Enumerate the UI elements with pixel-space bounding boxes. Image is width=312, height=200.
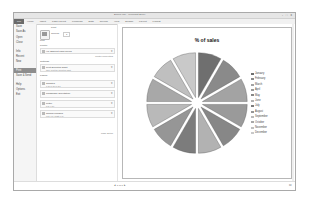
setting-dropdown-2[interactable]: Landscape Orientation▾ [40, 90, 115, 98]
pages-label: Pages: [40, 74, 48, 77]
chevron-down-icon: ▾ [111, 65, 113, 69]
window-title: Book1.xlsx - Microsoft Excel [114, 13, 145, 16]
copies-label: Copies: [51, 32, 59, 35]
printer-icon [42, 32, 47, 36]
setting-icon [42, 112, 45, 115]
legend-swatch [251, 132, 254, 134]
legend-swatch [251, 105, 254, 107]
legend-item: December [251, 130, 268, 135]
chevron-down-icon: ▾ [111, 49, 113, 53]
chevron-down-icon: ▾ [111, 101, 113, 105]
copies-input[interactable]: 1 [63, 32, 70, 37]
preview-scrollbar[interactable] [292, 24, 294, 182]
setting-dropdown-4[interactable]: Normal MarginsLeft: 0.7" Right: 0.7"▾ [40, 110, 115, 118]
print-button-label: Print [40, 39, 45, 41]
zoom-to-page-icon[interactable]: ⊡ [289, 184, 292, 187]
page-setup-link[interactable]: Page Setup [101, 132, 113, 134]
pie-chart [141, 47, 253, 159]
printer-dropdown[interactable]: HP Officejet 6500 series ▾ [40, 48, 115, 54]
page-navigator[interactable]: ◂ 1 of 1 ▸ [114, 184, 126, 187]
preview-page: % of sales JanuaryFebruaryMarchAprilMayJ… [122, 27, 292, 179]
status-bar: ◂ 1 of 1 ▸ ⊡ [14, 181, 295, 190]
print-heading: Print [51, 26, 56, 29]
chevron-down-icon: ▾ [111, 91, 113, 95]
window-controls[interactable]: - □ x [282, 13, 293, 17]
setting-icon [42, 66, 45, 69]
legend-swatch [251, 94, 254, 96]
legend-swatch [251, 89, 254, 91]
setting-icon [42, 102, 45, 105]
chart-legend: JanuaryFebruaryMarchAprilMayJuneJulyAugu… [251, 71, 268, 136]
nav-item-exit[interactable]: Exit [14, 92, 36, 97]
legend-swatch [251, 84, 254, 86]
legend-swatch [251, 78, 254, 80]
print-settings-panel: Print Print Copies: 1 Printer HP Officej… [37, 24, 117, 182]
setting-dropdown-1[interactable]: Collated1,2,3 1,2,3 1,2,3▾ [40, 80, 115, 88]
print-preview: % of sales JanuaryFebruaryMarchAprilMayJ… [117, 24, 295, 182]
chevron-down-icon: ▾ [111, 111, 113, 115]
setting-icon [42, 82, 45, 85]
legend-swatch [251, 127, 254, 129]
title-bar: Book1.xlsx - Microsoft Excel - □ x [14, 13, 295, 19]
printer-icon [42, 50, 45, 53]
legend-swatch [251, 116, 254, 118]
chart-title: % of sales [123, 37, 291, 43]
settings-heading: Settings [40, 60, 49, 63]
excel-window: Book1.xlsx - Microsoft Excel - □ x FileH… [13, 12, 296, 191]
legend-swatch [251, 100, 254, 102]
legend-swatch [251, 121, 254, 123]
setting-dropdown-3[interactable]: Letter8.5" x 11"▾ [40, 100, 115, 108]
chevron-down-icon: ▾ [111, 81, 113, 85]
setting-icon [42, 92, 45, 95]
legend-swatch [251, 73, 254, 75]
backstage-nav: SaveSave AsOpenCloseInfoRecentNewPrintSa… [14, 24, 37, 190]
printer-heading: Printer [40, 44, 47, 47]
printer-properties-link[interactable]: Printer Properties [95, 55, 113, 57]
setting-dropdown-0[interactable]: Print Selected ChartOnly print the selec… [40, 64, 115, 72]
legend-swatch [251, 111, 254, 113]
